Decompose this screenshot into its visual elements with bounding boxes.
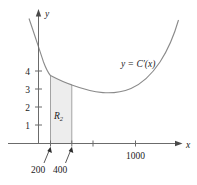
y-tick-label-3: 3 bbox=[25, 85, 30, 95]
y-tick-label-1: 1 bbox=[25, 121, 30, 131]
y-axis-label: y bbox=[44, 9, 50, 19]
calculus-figure: y x 4 3 2 1 200 400 1000 R2 y = C′(x) bbox=[0, 0, 197, 185]
x-axis-label: x bbox=[185, 140, 191, 150]
region-label-r2: R2 bbox=[53, 111, 64, 123]
curve-label-c-prime: y = C′(x) bbox=[120, 59, 155, 70]
y-tick-label-2: 2 bbox=[25, 103, 30, 113]
x-tick-label-1000: 1000 bbox=[126, 151, 145, 161]
x-tick-label-400: 400 bbox=[53, 165, 68, 175]
curve-label-prefix: y = C bbox=[120, 59, 143, 69]
label-layer: y x 4 3 2 1 200 400 1000 R2 y = C′(x) bbox=[0, 0, 197, 185]
x-tick-label-200: 200 bbox=[31, 165, 46, 175]
curve-label-suffix: (x) bbox=[145, 59, 156, 70]
y-tick-label-4: 4 bbox=[25, 67, 30, 77]
region-label-subscript: 2 bbox=[60, 115, 64, 122]
